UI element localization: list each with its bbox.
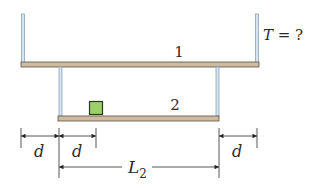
right-top-cable: [256, 14, 259, 63]
plank-2: [58, 116, 219, 121]
right-middle-cable: [216, 67, 219, 116]
green-box: [90, 102, 103, 115]
left-middle-cable: [59, 67, 62, 116]
diagram-canvas: 1 2 T = ? d d d L2: [0, 0, 316, 188]
left-top-cable: [22, 14, 25, 63]
d-right-label: d: [232, 142, 242, 161]
L2-main: L: [127, 157, 139, 177]
plank-2-label: 2: [170, 96, 180, 114]
L2-label: L2: [127, 157, 147, 181]
d-left-inner-label: d: [72, 142, 82, 161]
plank-1-label: 1: [174, 43, 184, 61]
tension-label: T = ?: [263, 26, 303, 44]
plank-1: [21, 62, 259, 67]
d-left-outer-label: d: [34, 142, 44, 161]
L2-subscript: 2: [139, 167, 147, 181]
